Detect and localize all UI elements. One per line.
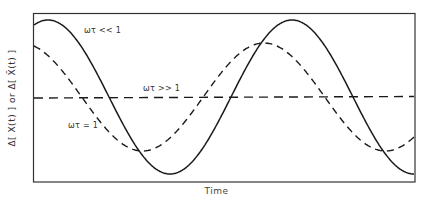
x-axis-label: Time [0,186,433,196]
curve-wt-much-greater-than-1 [34,97,414,99]
chart-plot-area [0,0,433,202]
y-axis-label-text: Δ[ X(t) ] or Δ[ X̄(t) ] [7,49,17,146]
annotation-wt-much-less-than-1: ωτ << 1 [84,26,121,35]
annotation-wt-equals-1: ωτ = 1 [68,121,98,130]
plot-frame [34,14,416,183]
y-axis-label: Δ[ X(t) ] or Δ[ X̄(t) ] [7,90,17,106]
annotation-wt-much-greater-than-1: ωτ >> 1 [143,84,180,93]
